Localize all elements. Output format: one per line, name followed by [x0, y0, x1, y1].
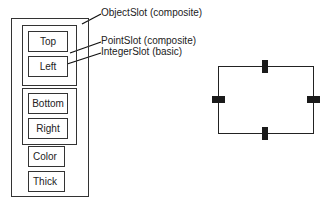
rectangle-shape[interactable] [218, 66, 314, 134]
slot-thick-label: Thick [33, 176, 57, 187]
slot-color-label: Color [33, 151, 57, 162]
point-slot-label: PointSlot (composite) [101, 35, 196, 46]
integer-slot-label: IntegerSlot (basic) [101, 46, 182, 57]
slot-bottom-label: Bottom [32, 98, 64, 109]
object-slot-label: ObjectSlot (composite) [101, 7, 202, 18]
slot-thick[interactable]: Thick [28, 171, 65, 192]
slot-top[interactable]: Top [28, 31, 68, 52]
slot-left-label: Left [40, 61, 57, 72]
slot-left[interactable]: Left [28, 56, 68, 77]
slot-top-label: Top [40, 36, 56, 47]
slot-right-label: Right [36, 123, 59, 134]
handle-right[interactable] [307, 96, 320, 103]
slot-right[interactable]: Right [28, 118, 68, 139]
slot-bottom[interactable]: Bottom [28, 93, 68, 114]
handle-bottom[interactable] [262, 127, 268, 140]
handle-left[interactable] [212, 96, 225, 103]
handle-top[interactable] [262, 60, 268, 73]
slot-color[interactable]: Color [28, 146, 65, 167]
